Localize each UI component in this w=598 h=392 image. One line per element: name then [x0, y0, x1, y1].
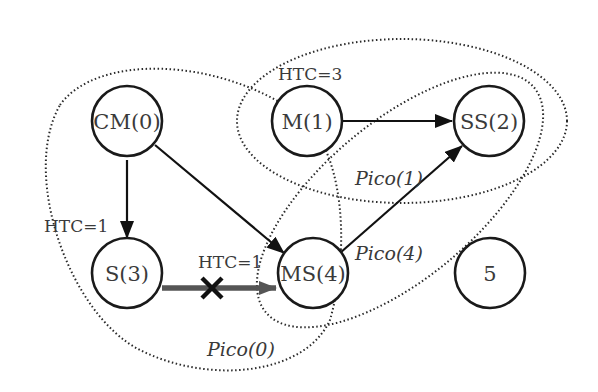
node-s3-label: S(3)	[105, 262, 149, 286]
node-cm0-label: CM(0)	[93, 110, 160, 134]
htc-label-s3: HTC=1	[44, 216, 108, 236]
pico-label-0: Pico(0)	[206, 338, 275, 360]
node-ss2-label: SS(2)	[460, 110, 518, 134]
node-5-label: 5	[483, 262, 496, 286]
node-5: 5	[455, 238, 525, 308]
pico-label-4: Pico(4)	[354, 242, 423, 264]
node-ms4-label: MS(4)	[280, 262, 346, 286]
node-ms4: MS(4)	[278, 238, 348, 308]
node-m1-label: M(1)	[281, 110, 332, 134]
node-cm0: CM(0)	[92, 86, 162, 156]
node-m1: M(1)	[272, 86, 342, 156]
pico-label-1: Pico(1)	[354, 167, 423, 189]
edge-cm0-to-ms4	[155, 145, 284, 253]
node-ss2: SS(2)	[454, 86, 524, 156]
pico-network-diagram: CM(0) M(1) SS(2) S(3) MS(4) 5 HTC=3 HTC=…	[0, 0, 598, 392]
node-s3: S(3)	[92, 238, 162, 308]
htc-label-edge: HTC=1	[198, 252, 262, 272]
htc-label-m1: HTC=3	[278, 64, 342, 84]
